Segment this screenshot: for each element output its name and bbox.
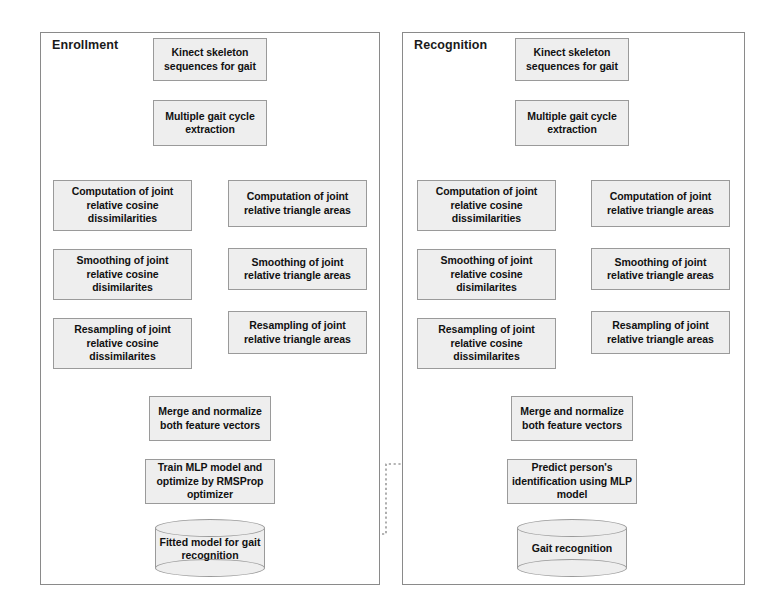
node-triangle-resampling-recognition[interactable]: Resampling of joint relative triangle ar…	[591, 311, 730, 354]
node-triangle-smoothing-enrollment[interactable]: Smoothing of joint relative triangle are…	[228, 248, 367, 290]
node-triangle-smoothing-recognition[interactable]: Smoothing of joint relative triangle are…	[591, 248, 730, 290]
node-triangle-resampling-enrollment[interactable]: Resampling of joint relative triangle ar…	[228, 311, 367, 354]
panel-title-enrollment: Enrollment	[52, 38, 118, 52]
node-input-enrollment[interactable]: Kinect skeleton sequences for gait	[153, 38, 267, 81]
node-cycle-extraction-recognition[interactable]: Multiple gait cycle extraction	[515, 100, 629, 146]
node-cosine-computation-recognition[interactable]: Computation of joint relative cosine dis…	[417, 180, 556, 231]
panel-title-recognition: Recognition	[414, 38, 487, 52]
node-cosine-smoothing-enrollment[interactable]: Smoothing of joint relative cosine disim…	[53, 249, 192, 300]
datastore-label: Gait recognition	[519, 542, 625, 555]
cylinder-bottom-ellipse	[517, 559, 627, 577]
cylinder-top-ellipse	[517, 519, 627, 537]
node-cosine-computation-enrollment[interactable]: Computation of joint relative cosine dis…	[53, 180, 192, 231]
node-predict-identification-recognition[interactable]: Predict person's identification using ML…	[507, 459, 637, 504]
cylinder-top-ellipse	[155, 519, 265, 537]
datastore-gait-recognition[interactable]: Gait recognition	[517, 519, 627, 577]
node-cycle-extraction-enrollment[interactable]: Multiple gait cycle extraction	[153, 100, 267, 146]
node-triangle-computation-recognition[interactable]: Computation of joint relative triangle a…	[591, 180, 730, 227]
node-triangle-computation-enrollment[interactable]: Computation of joint relative triangle a…	[228, 180, 367, 227]
node-cosine-resampling-recognition[interactable]: Resampling of joint relative cosine diss…	[417, 318, 556, 369]
datastore-fitted-model-enrollment[interactable]: Fitted model for gait recognition	[155, 519, 265, 577]
node-merge-normalize-recognition[interactable]: Merge and normalize both feature vectors	[511, 396, 633, 441]
node-input-recognition[interactable]: Kinect skeleton sequences for gait	[515, 38, 629, 81]
node-train-mlp-enrollment[interactable]: Train MLP model and optimize by RMSProp …	[145, 459, 275, 504]
node-cosine-smoothing-recognition[interactable]: Smoothing of joint relative cosine disim…	[417, 249, 556, 300]
node-merge-normalize-enrollment[interactable]: Merge and normalize both feature vectors	[149, 396, 271, 441]
node-cosine-resampling-enrollment[interactable]: Resampling of joint relative cosine diss…	[53, 318, 192, 369]
datastore-label: Fitted model for gait recognition	[157, 536, 263, 563]
